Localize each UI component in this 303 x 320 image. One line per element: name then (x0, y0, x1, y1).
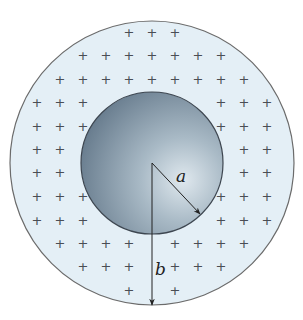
plus-charge-icon: + (193, 72, 204, 87)
plus-charge-icon: + (239, 72, 250, 87)
plus-charge-icon: + (78, 236, 89, 251)
plus-charge-icon: + (78, 72, 89, 87)
plus-charge-icon: + (78, 95, 89, 110)
plus-charge-icon: + (101, 48, 112, 63)
plus-charge-icon: + (216, 236, 227, 251)
plus-charge-icon: + (101, 259, 112, 274)
plus-charge-icon: + (55, 213, 66, 228)
plus-charge-icon: + (170, 259, 181, 274)
plus-charge-icon: + (216, 213, 227, 228)
plus-charge-icon: + (170, 283, 181, 298)
plus-charge-icon: + (147, 72, 158, 87)
plus-charge-icon: + (32, 119, 43, 134)
plus-charge-icon: + (78, 48, 89, 63)
plus-charge-icon: + (239, 236, 250, 251)
plus-charge-icon: + (32, 165, 43, 180)
plus-charge-icon: + (170, 48, 181, 63)
plus-charge-icon: + (124, 48, 135, 63)
plus-charge-icon: + (124, 283, 135, 298)
plus-charge-icon: + (216, 72, 227, 87)
plus-charge-icon: + (78, 259, 89, 274)
plus-charge-icon: + (101, 72, 112, 87)
plus-charge-icon: + (239, 165, 250, 180)
plus-charge-icon: + (32, 213, 43, 228)
plus-charge-icon: + (239, 189, 250, 204)
plus-charge-icon: + (216, 259, 227, 274)
plus-charge-icon: + (55, 236, 66, 251)
plus-charge-icon: + (216, 48, 227, 63)
plus-charge-icon: + (170, 236, 181, 251)
plus-charge-icon: + (262, 213, 273, 228)
plus-charge-icon: + (32, 95, 43, 110)
radius-b-label: b (155, 259, 166, 279)
plus-charge-icon: + (262, 119, 273, 134)
plus-charge-icon: + (262, 165, 273, 180)
plus-charge-icon: + (124, 259, 135, 274)
plus-charge-icon: + (124, 72, 135, 87)
plus-charge-icon: + (55, 165, 66, 180)
plus-charge-icon: + (124, 25, 135, 40)
plus-charge-icon: + (216, 95, 227, 110)
plus-charge-icon: + (32, 189, 43, 204)
plus-charge-icon: + (55, 189, 66, 204)
plus-charge-icon: + (239, 119, 250, 134)
plus-charge-icon: + (262, 95, 273, 110)
radius-a-label: a (176, 166, 186, 186)
plus-charge-icon: + (216, 119, 227, 134)
plus-charge-icon: + (55, 142, 66, 157)
plus-charge-icon: + (170, 25, 181, 40)
plus-charge-icon: + (193, 236, 204, 251)
plus-charge-icon: + (78, 119, 89, 134)
plus-charge-icon: + (55, 72, 66, 87)
plus-charge-icon: + (147, 25, 158, 40)
plus-charge-icon: + (147, 48, 158, 63)
plus-charge-icon: + (262, 189, 273, 204)
plus-charge-icon: + (239, 142, 250, 157)
plus-charge-icon: + (78, 213, 89, 228)
plus-charge-icon: + (193, 259, 204, 274)
plus-charge-icon: + (193, 48, 204, 63)
plus-charge-icon: + (239, 95, 250, 110)
diagram-canvas: ++++++++++++++++++++++++++++++++++++++++… (0, 0, 303, 320)
plus-charge-icon: + (262, 142, 273, 157)
plus-charge-icon: + (170, 72, 181, 87)
plus-charge-icon: + (55, 95, 66, 110)
plus-charge-icon: + (101, 236, 112, 251)
plus-charge-icon: + (239, 213, 250, 228)
plus-charge-icon: + (32, 142, 43, 157)
plus-charge-icon: + (55, 119, 66, 134)
plus-charge-icon: + (124, 236, 135, 251)
